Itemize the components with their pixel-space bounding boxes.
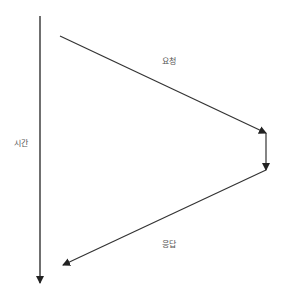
request-arrow	[60, 36, 266, 133]
sequence-diagram	[0, 0, 285, 299]
response-label: 응답	[162, 238, 176, 249]
response-arrow	[63, 170, 266, 265]
time-label: 시간	[14, 137, 28, 148]
request-label: 요청	[162, 55, 176, 66]
